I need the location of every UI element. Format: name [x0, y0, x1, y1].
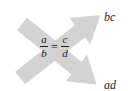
- label-ad: ad: [104, 79, 116, 91]
- fraction-c-over-d: c d: [61, 34, 69, 59]
- label-bc: bc: [104, 11, 115, 23]
- numerator-a: a: [41, 34, 47, 45]
- fraction-a-over-b: a b: [40, 34, 48, 59]
- denominator-d: d: [62, 48, 68, 59]
- denominator-b: b: [41, 48, 47, 59]
- numerator-c: c: [63, 34, 68, 45]
- equals-sign: =: [51, 40, 58, 55]
